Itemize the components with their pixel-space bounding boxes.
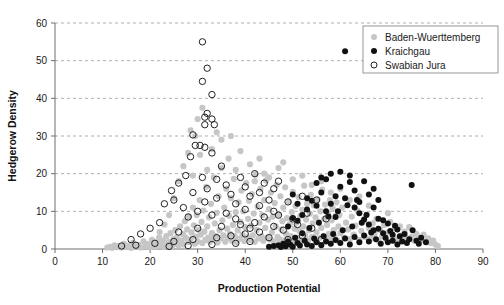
data-point: [349, 223, 355, 229]
data-point: [361, 217, 367, 223]
data-point: [202, 199, 208, 205]
data-point: [228, 133, 234, 139]
data-point: [323, 208, 329, 214]
data-point: [202, 122, 208, 128]
data-point: [371, 186, 377, 192]
data-point: [337, 169, 343, 175]
y-tick-label: 30: [36, 131, 48, 142]
data-point: [366, 222, 372, 228]
data-point: [328, 189, 334, 195]
data-point: [209, 91, 215, 97]
plot-area: 0102030405060708090 0102030405060 Produc…: [0, 0, 504, 305]
x-tick-label: 80: [430, 256, 442, 267]
data-point: [378, 241, 384, 247]
data-point: [337, 184, 343, 190]
data-point: [199, 78, 205, 84]
data-point: [297, 243, 303, 249]
x-tick-label: 60: [335, 256, 347, 267]
data-point: [385, 220, 391, 226]
data-point: [328, 241, 334, 247]
legend-label-1[interactable]: Baden-Wuerttemberg: [385, 32, 480, 43]
data-point: [182, 218, 188, 224]
data-point: [208, 201, 214, 207]
data-point: [259, 212, 265, 218]
data-point: [371, 205, 377, 211]
data-point: [347, 241, 353, 247]
x-tick-label: 20: [145, 256, 157, 267]
data-point: [435, 243, 441, 249]
data-point: [328, 171, 334, 177]
data-point: [218, 137, 224, 143]
data-point: [343, 220, 349, 226]
data-point: [156, 219, 162, 225]
data-point: [190, 189, 196, 195]
x-tick-labels: 0102030405060708090: [52, 256, 489, 267]
data-point: [197, 152, 203, 158]
data-point: [366, 238, 372, 244]
data-point: [180, 163, 186, 169]
data-point: [301, 183, 307, 189]
data-point: [361, 178, 367, 184]
data-point: [375, 216, 381, 222]
data-point: [316, 220, 322, 226]
legend-label-3[interactable]: Swabian Jura: [385, 60, 446, 71]
data-point: [277, 193, 283, 199]
data-point: [356, 199, 362, 205]
data-point: [342, 235, 348, 241]
x-tick-label: 0: [52, 256, 58, 267]
x-tick-label: 40: [240, 256, 252, 267]
data-point: [280, 159, 286, 165]
data-point: [180, 204, 186, 210]
data-point: [247, 161, 253, 167]
data-point: [335, 208, 341, 214]
data-point: [209, 146, 215, 152]
data-point: [330, 231, 336, 237]
data-point: [352, 234, 358, 240]
data-point: [309, 243, 315, 249]
data-point: [322, 201, 328, 207]
data-point: [356, 239, 362, 245]
data-point: [201, 229, 207, 235]
data-point: [233, 167, 239, 173]
data-point: [290, 244, 296, 250]
data-point: [256, 156, 262, 162]
data-point: [266, 174, 272, 180]
data-point: [190, 172, 196, 178]
data-point: [409, 182, 415, 188]
data-point: [356, 210, 362, 216]
data-point: [385, 210, 391, 216]
data-point: [199, 105, 205, 111]
y-tick-label: 10: [36, 206, 48, 217]
data-point: [416, 241, 422, 247]
x-tick-label: 30: [192, 256, 204, 267]
data-point: [216, 227, 222, 233]
legend-label-2[interactable]: Kraichgau: [385, 46, 430, 57]
data-point: [402, 231, 408, 237]
data-point: [349, 214, 355, 220]
data-point: [251, 210, 257, 216]
legend-marker-2: [371, 48, 377, 54]
data-point: [215, 193, 221, 199]
data-point: [318, 225, 324, 231]
legend[interactable]: Baden-WuerttembergKraichgauSwabian Jura: [363, 26, 498, 73]
data-point: [290, 191, 296, 197]
y-tick-label: 20: [36, 168, 48, 179]
data-point: [292, 235, 298, 241]
data-point: [418, 235, 424, 241]
data-point: [394, 226, 400, 232]
data-point: [211, 122, 217, 128]
data-point: [380, 230, 386, 236]
scatter-chart: 0102030405060708090 0102030405060 Produc…: [0, 0, 504, 305]
data-point: [204, 223, 210, 229]
data-point: [204, 167, 210, 173]
data-point: [147, 225, 153, 231]
data-point: [195, 116, 201, 122]
data-point: [161, 201, 167, 207]
data-point: [233, 209, 239, 215]
data-point: [166, 212, 172, 218]
data-point: [282, 184, 288, 190]
data-point: [324, 222, 330, 228]
data-point: [423, 239, 429, 245]
data-point: [371, 227, 377, 233]
x-tick-label: 50: [287, 256, 299, 267]
